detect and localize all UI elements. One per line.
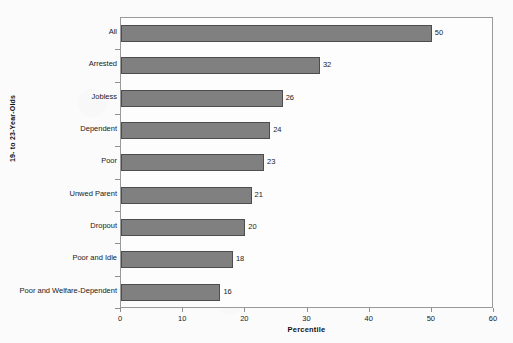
bar-value-label: 18 <box>236 252 244 266</box>
bar-value-label: 21 <box>255 188 263 202</box>
bar <box>121 154 264 171</box>
chart-screenshot: 19- to 23-Year-Olds AllArrestedJoblessDe… <box>0 0 513 343</box>
category-label: Jobless <box>0 91 117 103</box>
x-axis-tick-label: 40 <box>354 313 384 324</box>
category-label: All <box>0 26 117 38</box>
x-axis-tick <box>493 308 494 312</box>
bar-value-label: 32 <box>323 58 331 72</box>
category-label: Dependent <box>0 123 117 135</box>
bar <box>121 219 245 236</box>
bar-row: 16 <box>121 277 492 309</box>
bar <box>121 25 432 42</box>
bar-value-label: 26 <box>286 91 294 105</box>
x-axis-tick <box>369 308 370 312</box>
category-label: Unwed Parent <box>0 188 117 200</box>
bar-value-label: 24 <box>273 123 281 137</box>
x-axis-tick-label: 60 <box>478 313 508 324</box>
bar <box>121 57 320 74</box>
bar-row: 50 <box>121 18 492 50</box>
x-axis-tick-label: 20 <box>229 313 259 324</box>
bar <box>121 90 283 107</box>
x-axis-tick <box>307 308 308 312</box>
plot-area: 503226242321201816 <box>120 17 493 308</box>
x-axis-tick-label: 10 <box>167 313 197 324</box>
bar-value-label: 20 <box>248 220 256 234</box>
category-label: Poor and Welfare-Dependent <box>0 285 117 297</box>
bar <box>121 251 233 268</box>
x-axis-tick-label: 50 <box>416 313 446 324</box>
bar-row: 32 <box>121 50 492 82</box>
category-label: Arrested <box>0 58 117 70</box>
category-label: Dropout <box>0 220 117 232</box>
bar-row: 20 <box>121 212 492 244</box>
x-axis-tick <box>120 308 121 312</box>
category-label: Poor and Idle <box>0 252 117 264</box>
category-label: Poor <box>0 155 117 167</box>
bar-row: 18 <box>121 244 492 276</box>
bar <box>121 122 270 139</box>
x-axis-tick-label: 0 <box>105 313 135 324</box>
bar-row: 24 <box>121 115 492 147</box>
x-axis-tick <box>182 308 183 312</box>
bar <box>121 284 220 301</box>
bar-row: 26 <box>121 83 492 115</box>
x-axis-tick <box>431 308 432 312</box>
bar-value-label: 23 <box>267 155 275 169</box>
bar <box>121 187 252 204</box>
bar-row: 21 <box>121 180 492 212</box>
x-axis-tick-label: 30 <box>292 313 322 324</box>
x-axis-tick <box>244 308 245 312</box>
bar-row: 23 <box>121 147 492 179</box>
bar-value-label: 16 <box>223 285 231 299</box>
bar-value-label: 50 <box>435 26 443 40</box>
x-axis-title: Percentile <box>120 325 493 334</box>
